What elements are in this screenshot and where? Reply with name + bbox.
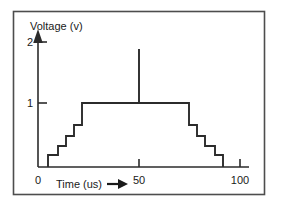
x-tick-label-100: 100 [231, 174, 249, 186]
x-axis-label: Time (us) [56, 178, 102, 190]
figure-root: 2 1 0 50 100 Voltage (v) Time (us) [0, 0, 281, 209]
voltage-time-chart: 2 1 0 50 100 Voltage (v) Time (us) [0, 0, 281, 209]
y-axis-label: Voltage (v) [30, 20, 83, 32]
x-tick-label-50: 50 [133, 174, 145, 186]
y-tick-label-1: 1 [27, 97, 33, 109]
y-tick-label-2: 2 [27, 36, 33, 48]
x-tick-label-0: 0 [35, 174, 41, 186]
